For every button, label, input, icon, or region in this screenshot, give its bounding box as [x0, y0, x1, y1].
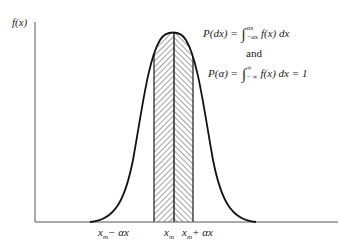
integral-sign-icon: ∫ — [241, 26, 245, 42]
diagram-canvas — [0, 0, 347, 251]
integral-sign-icon: ∫ — [242, 66, 246, 82]
tick-suffix: + αx — [192, 226, 213, 238]
eq1-limits: αx−αx — [246, 24, 258, 42]
tick-suffix: − αx — [108, 226, 129, 238]
x-tick-upper-bound: xm+ αx — [182, 226, 213, 241]
y-axis-label: f(x) — [12, 17, 27, 28]
eq2-integrand: f(x) dx = 1 — [261, 67, 308, 79]
equation-interval-probability: P(dx) = ∫αx−αxf(x) dx — [203, 25, 289, 43]
eq1-integrand: f(x) dx — [261, 27, 289, 39]
eq2-limits: ∞− ∞ — [247, 64, 258, 82]
eq2-lhs: P(α) = — [208, 67, 238, 79]
eq1-lhs: P(dx) = — [203, 27, 238, 39]
equation-connector: and — [246, 48, 262, 59]
equation-total-probability: P(α) = ∫∞− ∞f(x) dx = 1 — [208, 65, 307, 83]
left-hatched-area — [154, 20, 174, 222]
tick-subscript: m — [169, 233, 174, 241]
probability-density-diagram: f(x) P(dx) = ∫αx−αxf(x) dx and P(α) = ∫∞… — [0, 0, 347, 251]
eq2-lower-limit: − ∞ — [247, 73, 258, 82]
eq1-upper-limit: αx — [246, 24, 258, 33]
x-tick-mode: xm — [164, 226, 174, 241]
eq1-lower-limit: −αx — [246, 33, 258, 42]
x-tick-lower-bound: xm− αx — [98, 226, 129, 241]
eq2-upper-limit: ∞ — [247, 64, 258, 73]
